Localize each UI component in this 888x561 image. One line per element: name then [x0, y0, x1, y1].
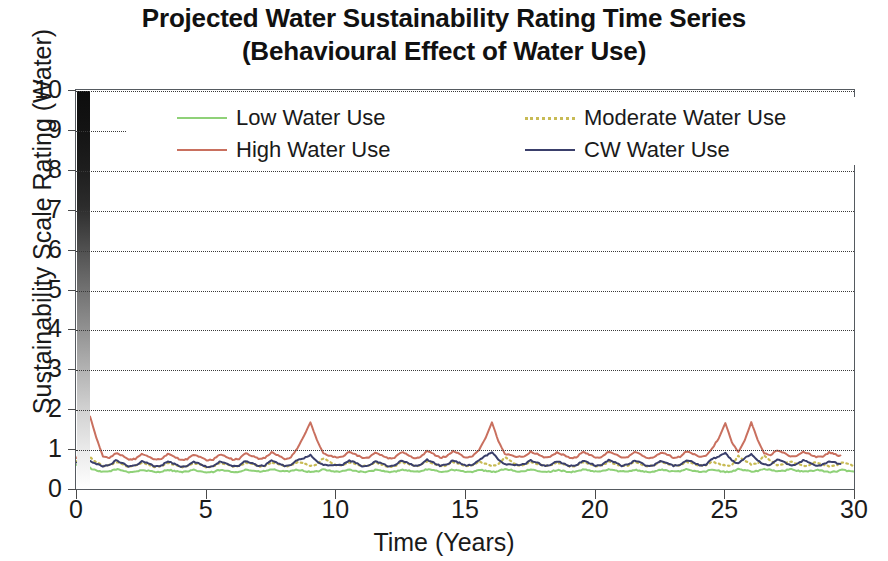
legend-moderate-water-use-label: Moderate Water Use: [584, 107, 786, 129]
y-tick-label-8: 8: [2, 157, 62, 182]
y-tick-mark-10: [68, 90, 76, 91]
chart-figure: Projected Water Sustainability Rating Ti…: [0, 0, 888, 561]
gridline-y-10: [76, 91, 855, 92]
x-tick-label-30: 30: [824, 497, 884, 522]
legend-cw-water-use-label: CW Water Use: [584, 139, 730, 161]
legend-low-water-use-label: Low Water Use: [236, 107, 386, 129]
x-tick-label-15: 15: [435, 497, 495, 522]
x-axis-title: Time (Years): [0, 528, 888, 557]
legend-high-water-use-label: High Water Use: [236, 139, 390, 161]
y-tick-mark-1: [68, 449, 76, 450]
y-tick-mark-2: [68, 409, 76, 410]
gridline-y-3: [76, 370, 855, 371]
x-tick-label-10: 10: [305, 497, 365, 522]
y-tick-label-2: 2: [2, 396, 62, 421]
chart-title: Projected Water Sustainability Rating Ti…: [0, 2, 888, 68]
y-tick-label-4: 4: [2, 316, 62, 341]
y-tick-label-5: 5: [2, 277, 62, 302]
legend-moderate-water-use-swatch: [525, 111, 575, 125]
gridline-y-1: [76, 450, 855, 451]
y-tick-label-7: 7: [2, 197, 62, 222]
y-tick-mark-3: [68, 369, 76, 370]
y-tick-label-6: 6: [2, 237, 62, 262]
y-tick-label-1: 1: [2, 436, 62, 461]
y-tick-label-3: 3: [2, 356, 62, 381]
y-tick-mark-0: [68, 489, 76, 490]
chart-legend: Low Water UseModerate Water UseHigh Wate…: [126, 97, 868, 165]
y-tick-label-10: 10: [2, 77, 62, 102]
y-tick-mark-5: [68, 290, 76, 291]
gridline-y-8: [76, 171, 855, 172]
x-tick-label-5: 5: [176, 497, 236, 522]
y-tick-mark-4: [68, 329, 76, 330]
y-tick-label-9: 9: [2, 117, 62, 142]
y-tick-mark-6: [68, 250, 76, 251]
chart-title-line-1: Projected Water Sustainability Rating Ti…: [0, 2, 888, 35]
gridline-y-5: [76, 291, 855, 292]
y-tick-mark-8: [68, 170, 76, 171]
legend-moderate-water-use[interactable]: Moderate Water Use: [525, 104, 786, 132]
x-tick-label-25: 25: [694, 497, 754, 522]
legend-high-water-use-swatch: [177, 143, 227, 157]
gridline-y-7: [76, 211, 855, 212]
legend-cw-water-use[interactable]: CW Water Use: [525, 136, 730, 164]
gridline-y-2: [76, 410, 855, 411]
legend-low-water-use[interactable]: Low Water Use: [177, 104, 386, 132]
y-tick-mark-9: [68, 130, 76, 131]
gridline-y-6: [76, 251, 855, 252]
legend-high-water-use[interactable]: High Water Use: [177, 136, 390, 164]
x-tick-label-0: 0: [46, 497, 106, 522]
x-tick-label-20: 20: [565, 497, 625, 522]
legend-cw-water-use-swatch: [525, 143, 575, 157]
gridline-y-4: [76, 330, 855, 331]
legend-low-water-use-swatch: [177, 111, 227, 125]
y-tick-mark-7: [68, 210, 76, 211]
chart-title-line-2: (Behavioural Effect of Water Use): [0, 35, 888, 68]
